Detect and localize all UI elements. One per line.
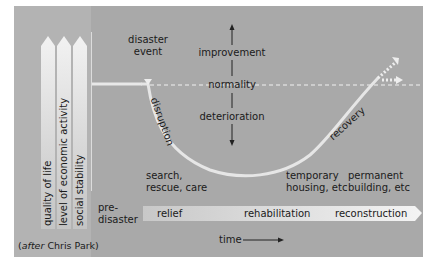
disaster-event-label: disaster event <box>122 34 174 58</box>
indicator-label-social-stability: social stability <box>74 155 85 226</box>
phase-reconstruction: reconstruction <box>335 208 407 220</box>
pre-disaster-label: pre- disaster <box>98 202 138 226</box>
normality-label: normality <box>200 79 264 91</box>
attribution: (after Chris Park) <box>18 240 99 252</box>
indicator-label-economic-activity: level of economic activity <box>58 98 69 226</box>
deterioration-label: deterioration <box>190 111 274 123</box>
improvement-label: improvement <box>190 47 274 59</box>
phase-relief: relief <box>157 208 182 220</box>
stage-note-permanent-building: permanent building, etc <box>348 170 410 194</box>
phase-rehabilitation: rehabilitation <box>244 208 310 220</box>
indicator-label-quality-of-life: quality of life <box>42 161 53 226</box>
stage-note-temporary-housing: temporary housing, etc <box>286 170 347 194</box>
time-axis-label: time <box>219 234 242 246</box>
stage-note-search-rescue: search, rescue, care <box>146 170 207 194</box>
